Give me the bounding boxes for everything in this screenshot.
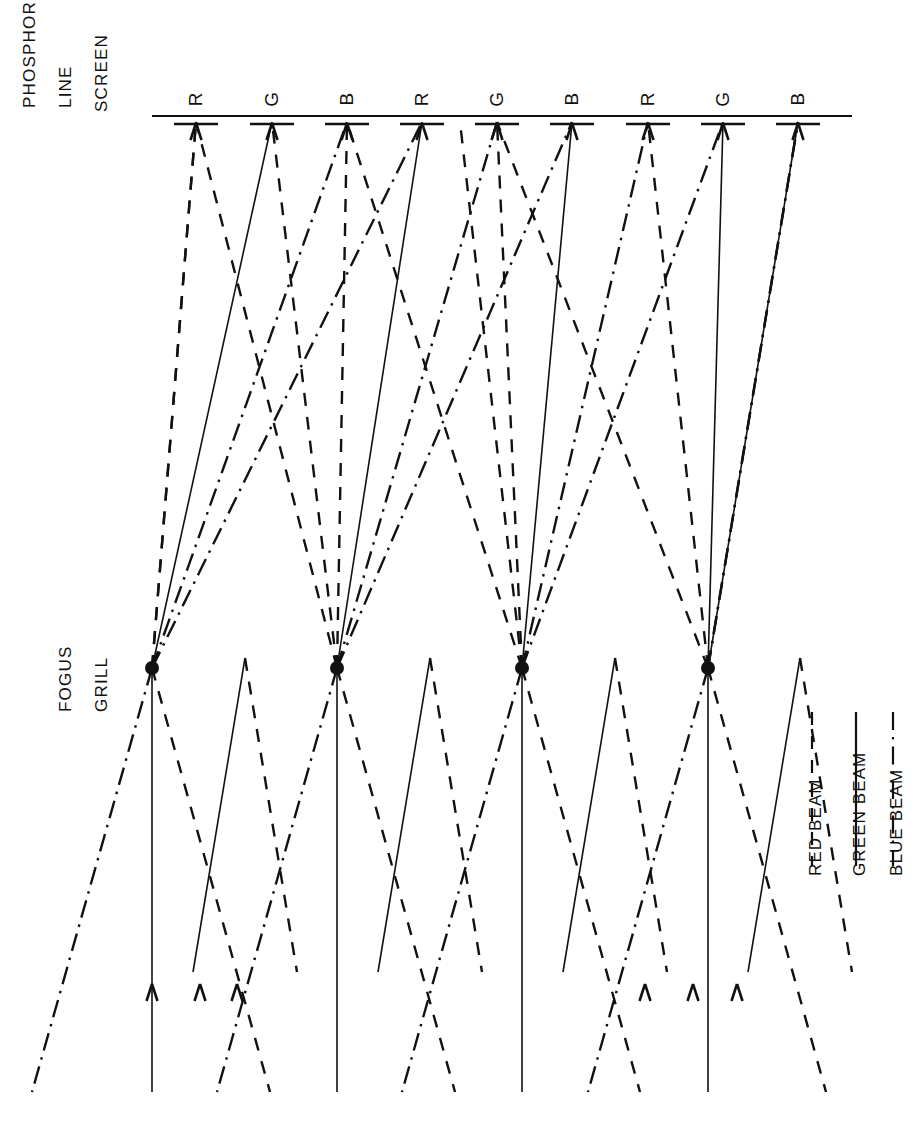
beam-arrowhead-source [232, 984, 243, 1001]
phosphor-stripe-label-b: B [561, 86, 583, 112]
beam-segment-upper [522, 122, 648, 668]
beam-segment-upper [460, 122, 522, 668]
phosphor-stripe-label-r: R [185, 86, 207, 112]
beam-paths-lower [32, 658, 852, 1092]
screen-label-phosphor: PHOSPHOR [20, 1, 40, 108]
phosphor-stripe-label-b: B [336, 86, 358, 112]
beam-segment-upper [497, 122, 522, 668]
phosphor-stripe-label-g: G [712, 86, 734, 112]
beam-segment-upper [337, 122, 497, 668]
arrowhead-stroke [567, 123, 578, 140]
focus-grill-label-grill: GRILL [92, 657, 112, 712]
beam-segment-upper [196, 122, 337, 668]
arrowhead-stroke [232, 984, 243, 1001]
beam-segment-lower [32, 668, 152, 1092]
screen-label-line: LINE [56, 65, 76, 108]
beam-segment-lower [193, 658, 245, 972]
beam-segment-lower [245, 658, 297, 972]
arrowhead-stroke [793, 123, 804, 140]
beam-segment-upper [347, 122, 522, 668]
beam-segment-upper [522, 122, 723, 668]
legend-label-green: GREEN BEAM [850, 752, 870, 876]
beam-arrowhead-source [195, 984, 206, 1001]
phosphor-stripe-label-r: R [411, 86, 433, 112]
beam-arrowhead-source [640, 984, 651, 1001]
beam-segment-lower [708, 668, 826, 1092]
beam-segment-lower [588, 668, 708, 1092]
beam-segment-lower [152, 668, 270, 1092]
beam-segment-upper [272, 122, 337, 668]
focus-grill-aperture-dot [330, 661, 344, 675]
focus-grill-aperture-dot [515, 661, 529, 675]
beam-arrowhead-source [732, 984, 743, 1001]
beam-segment-upper [337, 122, 422, 668]
arrowhead-stroke [195, 984, 206, 1001]
phosphor-stripe-label-g: G [261, 86, 283, 112]
diagram-canvas: PHOSPHOR LINE SCREEN FOGUS GRILL RGBRGBR… [0, 0, 920, 1132]
screen-label-screen: SCREEN [92, 34, 112, 112]
beam-segment-lower [378, 658, 430, 972]
beam-segment-lower [522, 668, 640, 1092]
beam-arrowhead-source [688, 984, 699, 1001]
beam-arrowhead-screen [567, 123, 578, 140]
phosphor-stripe-label-r: R [637, 86, 659, 112]
arrowhead-stroke [640, 984, 651, 1001]
focus-grill-label-focus: FOGUS [56, 646, 76, 712]
beam-segment-lower [563, 658, 615, 972]
beam-segment-upper [152, 122, 272, 668]
beam-segment-upper [648, 122, 708, 668]
arrowhead-stroke [417, 123, 428, 140]
beam-segment-lower [615, 658, 667, 972]
legend-label-blue: BLUE BEAM [887, 769, 907, 876]
legend-label-red: RED BEAM [806, 778, 826, 876]
phosphor-stripe-label-b: B [787, 86, 809, 112]
beam-segment-upper [152, 122, 196, 668]
beam-arrowhead-screen [793, 123, 804, 140]
phosphor-stripe-label-g: G [486, 86, 508, 112]
beam-segment-upper [152, 122, 422, 668]
beam-segment-upper [337, 122, 347, 668]
focus-grill-aperture-dot [701, 661, 715, 675]
beam-segment-upper [152, 122, 347, 668]
beam-segment-lower [402, 668, 522, 1092]
focus-grill-aperture-dot [145, 661, 159, 675]
beam-segment-lower [430, 658, 482, 972]
beam-segment-lower [337, 668, 455, 1092]
beam-segment-upper [497, 122, 708, 668]
crt-beam-diagram [0, 0, 920, 1132]
beam-segment-lower [217, 668, 337, 1092]
beam-paths-upper [152, 122, 798, 668]
arrowhead-stroke [688, 984, 699, 1001]
arrowhead-stroke [732, 984, 743, 1001]
beam-arrowhead-screen [417, 123, 428, 140]
beam-segment-lower [748, 658, 800, 972]
beam-segment-upper [522, 122, 572, 668]
